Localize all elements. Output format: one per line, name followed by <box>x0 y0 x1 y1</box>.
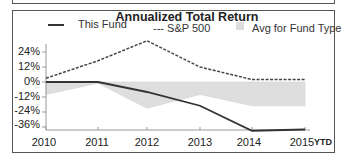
y-tick-label: -36% <box>10 118 40 130</box>
x-tick-label: 2011 <box>77 136 117 148</box>
x-tick-label: 2013 <box>180 136 220 148</box>
y-tick-label: 12% <box>10 60 40 72</box>
y-tick-label: -12% <box>10 90 40 102</box>
y-tick-label: 0% <box>10 75 40 87</box>
x-tick-label: 2012 <box>127 136 167 148</box>
ytd-label: YTD <box>314 137 332 147</box>
avg-fund-type-area <box>46 82 305 108</box>
y-tick-label: 24% <box>10 45 40 57</box>
x-tick-label: 2014 <box>229 136 269 148</box>
y-tick-label: -24% <box>10 104 40 116</box>
sp500-line <box>46 41 305 80</box>
x-tick-label: 2010 <box>24 136 64 148</box>
